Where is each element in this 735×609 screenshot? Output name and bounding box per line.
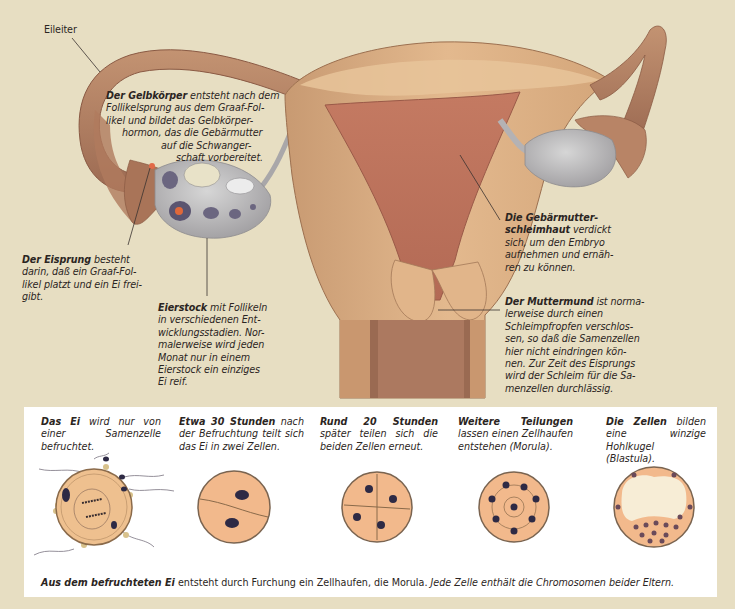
development-stages-panel: Das Ei wird nur von einer Samenzelle bef… bbox=[24, 407, 717, 597]
schleimhaut-title: schleimhaut bbox=[505, 224, 570, 235]
caption-italic-text: Jede Zelle enthält die Chromosomen beide… bbox=[431, 577, 675, 588]
label-eileiter: Eileiter bbox=[44, 24, 77, 36]
morula-stage bbox=[479, 472, 549, 542]
muttermund-line: hier nicht eindringen kön- bbox=[505, 346, 685, 358]
gelbkoerper-line: auf die Schwanger- bbox=[106, 140, 296, 152]
eierstock-line: wicklungsstadien. Nor- bbox=[158, 327, 288, 339]
gelbkoerper-title: Der Gelbkörper bbox=[106, 90, 187, 101]
label-muttermund: Der Muttermund ist norma- lerweise durch… bbox=[505, 296, 685, 395]
schleimhaut-line: verdickt bbox=[573, 224, 611, 235]
label-gelbkoerper: Der Gelbkörper entsteht nach dem Follike… bbox=[106, 90, 296, 164]
eisprung-line: gibt. bbox=[22, 291, 152, 303]
label-eierstock: Eierstock mit Follikeln in verschiedenen… bbox=[158, 302, 288, 389]
eierstock-line: mit Follikeln bbox=[210, 302, 267, 313]
eisprung-line: likel platzt und ein Ei frei- bbox=[22, 279, 152, 291]
muttermund-title: Der Muttermund bbox=[505, 296, 593, 307]
schleimhaut-line: sich, um den Embryo bbox=[505, 237, 645, 249]
label-schleimhaut: Die Gebärmutter- schleimhaut verdickt si… bbox=[505, 212, 645, 274]
eierstock-line: Eierstock ein einziges bbox=[158, 364, 288, 376]
muttermund-line: Schleimpfropfen verschlos- bbox=[505, 321, 685, 333]
schleimhaut-line: aufnehmen und ernäh- bbox=[505, 249, 645, 261]
muttermund-line: wird der Schleim für die Sa- bbox=[505, 370, 685, 382]
muttermund-line: lerweise durch einen bbox=[505, 308, 685, 320]
muttermund-line: nen. Zur Zeit des Eisprungs bbox=[505, 358, 685, 370]
label-eisprung: Der Eisprung besteht darin, daß ein Graa… bbox=[22, 254, 152, 304]
gelbkoerper-line: Follikelsprung aus dem Graaf-Fol- bbox=[106, 102, 296, 114]
eisprung-line: darin, daß ein Graaf-Fol- bbox=[22, 266, 152, 278]
label-eileiter-text: Eileiter bbox=[44, 24, 77, 35]
gelbkoerper-line: likel und bildet das Gelbkörper- bbox=[106, 115, 296, 127]
gelbkoerper-line: schaft vorbereitet. bbox=[106, 152, 296, 164]
eisprung-line: besteht bbox=[94, 254, 130, 265]
four-cell-stage bbox=[342, 472, 412, 542]
eierstock-line: Ei reif. bbox=[158, 376, 288, 388]
gelbkoerper-line: hormon, das die Gebärmutter bbox=[106, 127, 296, 139]
muttermund-line: ist norma- bbox=[596, 296, 644, 307]
eierstock-line: malerweise wird jeden bbox=[158, 339, 288, 351]
eierstock-line: Monat nur in einem bbox=[158, 352, 288, 364]
schleimhaut-title: Die Gebärmutter- bbox=[505, 212, 598, 223]
two-cell-stage bbox=[198, 471, 270, 543]
muttermund-line: sen, so daß die Samenzellen bbox=[505, 333, 685, 345]
cell-division-illustrations bbox=[24, 407, 717, 572]
eisprung-title: Der Eisprung bbox=[22, 254, 91, 265]
caption-title: Aus dem befruchteten Ei bbox=[41, 577, 175, 588]
muttermund-line: menzellen durchlässig. bbox=[505, 383, 685, 395]
eierstock-title: Eierstock bbox=[158, 302, 207, 313]
eierstock-line: in verschiedenen Ent- bbox=[158, 314, 288, 326]
blastula-stage bbox=[614, 467, 694, 547]
figure-page: Eileiter Der Gelbkörper entsteht nach de… bbox=[0, 0, 735, 609]
panel-caption: Aus dem befruchteten Ei entsteht durch F… bbox=[41, 577, 674, 588]
egg-with-sperm bbox=[34, 453, 174, 555]
schleimhaut-line: ren zu können. bbox=[505, 262, 645, 274]
gelbkoerper-line: entsteht nach dem bbox=[190, 90, 279, 101]
caption-upright-text: entsteht durch Furchung ein Zellhaufen, … bbox=[178, 577, 428, 588]
